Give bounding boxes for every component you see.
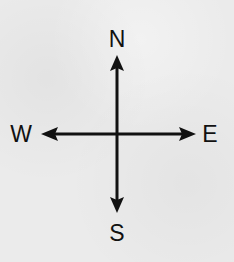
south-label: S: [102, 222, 132, 245]
west-label: W: [6, 123, 36, 146]
north-label: N: [102, 28, 132, 51]
east-label: E: [195, 123, 225, 146]
